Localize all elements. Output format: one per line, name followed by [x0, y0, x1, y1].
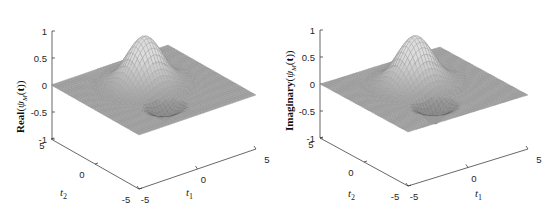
- real-surface-canvas: 10.50-0.5-150-5-505: [0, 0, 280, 217]
- t2-tick-label: -5: [122, 194, 130, 205]
- z-tick-label: 0: [42, 80, 47, 91]
- t1-tick-label: 0: [201, 174, 206, 185]
- z-tick-label: 1: [310, 25, 315, 36]
- t2-axis-label: t2: [60, 186, 67, 201]
- z-tick-label: -0.5: [299, 106, 315, 117]
- t1-tick-label: -5: [410, 191, 418, 202]
- z-tick-label: 0.5: [34, 53, 47, 64]
- t2-tick-label: 5: [39, 140, 44, 151]
- t1-tick-label: -5: [141, 194, 149, 205]
- t2-tick-label: 5: [308, 139, 313, 150]
- surface-mesh: [320, 36, 528, 132]
- t2-tick-label: -5: [391, 191, 399, 202]
- surface-mesh: [51, 36, 256, 135]
- real-part-surface-plot: 10.50-0.5-150-5-505 Real(ψM(t)) t2 t1: [0, 0, 280, 217]
- z-tick-label: 0.5: [302, 52, 315, 63]
- imaginary-part-surface-plot: 10.50-0.5-150-5-505 Imaginary(ψM(t)) t2 …: [270, 0, 550, 217]
- z-axis-label-imaginary: Imaginary(ψM(t)): [283, 50, 298, 131]
- t1-tick-label: 5: [536, 154, 541, 165]
- t2-tick-label: 0: [348, 167, 353, 178]
- t2-axis-label: t2: [348, 187, 355, 202]
- z-tick-label: 0: [310, 79, 315, 90]
- t1-tick-label: 5: [264, 154, 269, 165]
- z-axis-label-real: Real(ψM(t)): [14, 81, 29, 133]
- t1-axis-label: t1: [475, 187, 482, 202]
- imaginary-surface-canvas: 10.50-0.5-150-5-505: [270, 0, 550, 217]
- z-tick-label: 1: [42, 26, 47, 37]
- t1-tick-label: 0: [471, 173, 476, 184]
- t2-tick-label: 0: [79, 169, 84, 180]
- z-tick-label: -0.5: [31, 107, 47, 118]
- t1-axis-label: t1: [186, 186, 193, 201]
